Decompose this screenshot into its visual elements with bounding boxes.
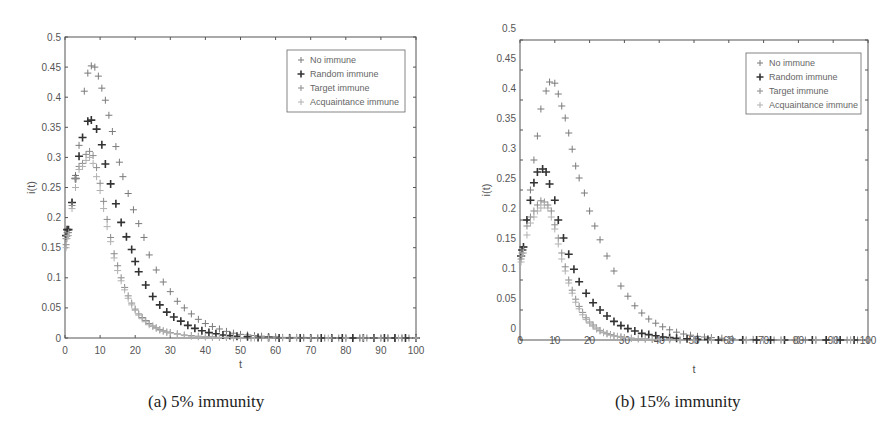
series-target-immune	[518, 197, 872, 343]
series-acquaintance-immune	[63, 154, 420, 342]
x-tick-label: 20	[130, 345, 142, 356]
y-tick-label: 0.3	[502, 143, 516, 154]
x-axis-label: t	[692, 363, 695, 375]
caption-a: (a) 5% immunity	[148, 392, 264, 412]
legend-label: Acquaintance immune	[310, 97, 399, 107]
y-tick-label: 0.5	[47, 32, 61, 43]
legend-label: Random immune	[769, 72, 838, 82]
y-tick-label: 0.25	[42, 182, 62, 193]
y-tick-label: 0.35	[497, 113, 517, 124]
x-tick-label: 10	[95, 345, 107, 356]
y-axis-label: i(t)	[480, 184, 492, 197]
y-tick-label: 0.1	[502, 263, 516, 274]
series-target-immune	[63, 148, 420, 342]
legend-item: Acquaintance immune	[298, 97, 399, 107]
y-tick-label: 0.2	[47, 212, 61, 223]
legend-label: Target immune	[310, 83, 370, 93]
figure-panel-a: 0102030405060708090100t00.050.10.150.20.…	[0, 0, 444, 434]
y-tick-label: 0.05	[42, 302, 62, 313]
legend-label: Random immune	[310, 69, 379, 79]
legend-item: Acquaintance immune	[757, 100, 858, 110]
x-tick-label: 70	[305, 345, 317, 356]
y-tick-label: 0.3	[47, 152, 61, 163]
x-tick-label: 20	[584, 335, 596, 346]
y-tick-label: 0.05	[497, 293, 517, 304]
y-tick-label: 0.4	[502, 83, 516, 94]
y-tick-label: 0.45	[42, 62, 62, 73]
x-tick-label: 30	[165, 345, 177, 356]
x-tick-label: 40	[200, 345, 212, 356]
x-tick-label: 10	[549, 335, 561, 346]
y-tick-label: 0	[55, 333, 61, 344]
chart-15-percent-immunity: 0102030405060708090100t00.050.10.150.20.…	[444, 0, 889, 434]
y-tick-label: 0.35	[42, 122, 62, 133]
y-tick-label: 0.15	[42, 242, 62, 253]
y-axis-label: i(t)	[25, 181, 37, 194]
legend-label: No immune	[769, 58, 815, 68]
figure-panel-b: 0102030405060708090100t00.050.10.150.20.…	[444, 0, 889, 434]
legend-label: Target immune	[769, 86, 829, 96]
y-tick-label: 0.4	[47, 92, 61, 103]
y-tick-label: 0.15	[497, 233, 517, 244]
chart-5-percent-immunity: 0102030405060708090100t00.050.10.150.20.…	[0, 0, 444, 434]
x-tick-label: 50	[235, 345, 247, 356]
x-tick-label: 100	[408, 345, 425, 356]
legend-label: No immune	[310, 55, 356, 65]
y-tick-label: 0.25	[497, 173, 517, 184]
y-tick-label: 0.45	[497, 53, 517, 64]
legend: No immuneRandom immuneTarget immuneAcqua…	[287, 50, 405, 112]
legend: No immuneRandom immuneTarget immuneAcqua…	[746, 53, 861, 114]
y-tick-label: 0	[510, 323, 516, 334]
x-tick-label: 80	[340, 345, 352, 356]
x-tick-label: 60	[270, 345, 282, 356]
legend-item: Random immune	[757, 72, 838, 82]
series-acquaintance-immune	[518, 202, 872, 344]
caption-b: (b) 15% immunity	[615, 392, 741, 412]
x-axis-label: t	[239, 358, 242, 370]
x-tick-label: 90	[375, 345, 387, 356]
y-tick-label: 0.5	[502, 23, 516, 34]
legend-item: Random immune	[298, 69, 379, 79]
series-no-immune	[518, 79, 872, 344]
y-tick-label: 0.2	[502, 203, 516, 214]
series-random-immune	[517, 165, 872, 344]
legend-label: Acquaintance immune	[769, 100, 858, 110]
x-tick-label: 0	[62, 345, 68, 356]
y-tick-label: 0.1	[47, 272, 61, 283]
